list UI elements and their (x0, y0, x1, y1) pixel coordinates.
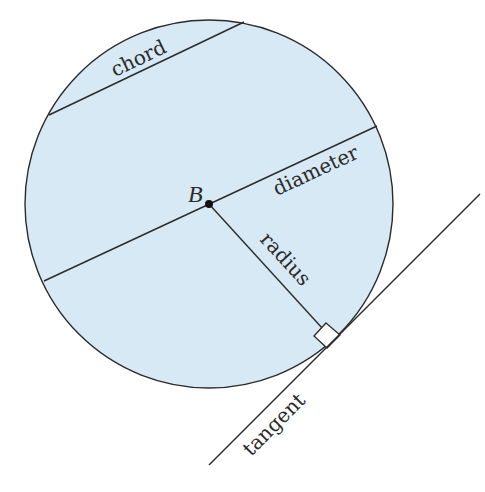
center-label: B (188, 181, 203, 207)
center-point (205, 200, 213, 208)
tangent-label: tangent (238, 388, 310, 460)
circle-diagram: chord diameter radius tangent B (0, 0, 485, 492)
